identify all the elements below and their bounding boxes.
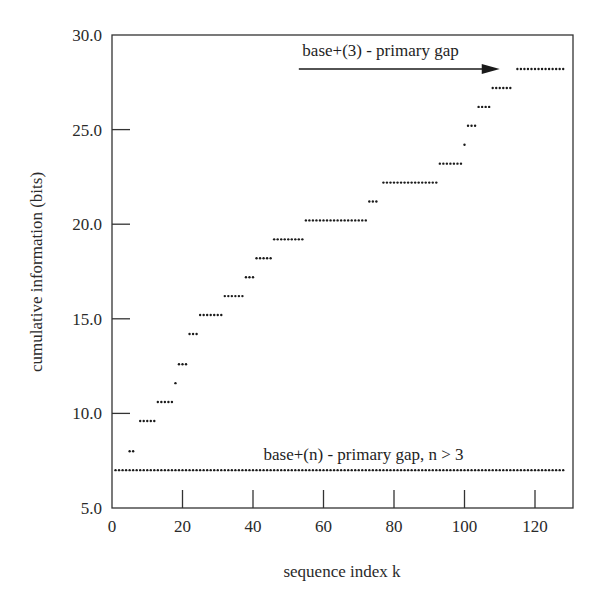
data-points — [114, 68, 564, 472]
x-tick-label: 40 — [245, 517, 262, 536]
y-tick-label: 30.0 — [72, 26, 102, 45]
x-tick-label: 120 — [522, 517, 548, 536]
x-tick-label: 80 — [386, 517, 403, 536]
x-axis-ticks: 020406080100120 — [108, 490, 548, 536]
annotation-bottom-label: base+(n) - primary gap, n > 3 — [264, 445, 464, 464]
annotation-top-label: base+(3) - primary gap — [302, 41, 458, 60]
y-tick-label: 5.0 — [81, 499, 102, 518]
y-tick-label: 10.0 — [72, 404, 102, 423]
x-tick-label: 0 — [108, 517, 117, 536]
x-tick-label: 60 — [315, 517, 332, 536]
y-axis-label: cumulative information (bits) — [27, 172, 46, 372]
y-tick-label: 20.0 — [72, 215, 102, 234]
y-tick-label: 25.0 — [72, 121, 102, 140]
annotations: base+(3) - primary gap base+(n) - primar… — [264, 41, 500, 464]
y-axis-ticks: 5.010.015.020.025.030.0 — [72, 26, 130, 518]
plot-frame — [112, 35, 573, 508]
y-tick-label: 15.0 — [72, 310, 102, 329]
x-axis-label: sequence index k — [283, 562, 401, 581]
chart-canvas: 5.010.015.020.025.030.0 020406080100120 … — [0, 0, 604, 609]
x-tick-label: 100 — [452, 517, 478, 536]
arrow-icon — [299, 64, 500, 74]
x-tick-label: 20 — [174, 517, 191, 536]
